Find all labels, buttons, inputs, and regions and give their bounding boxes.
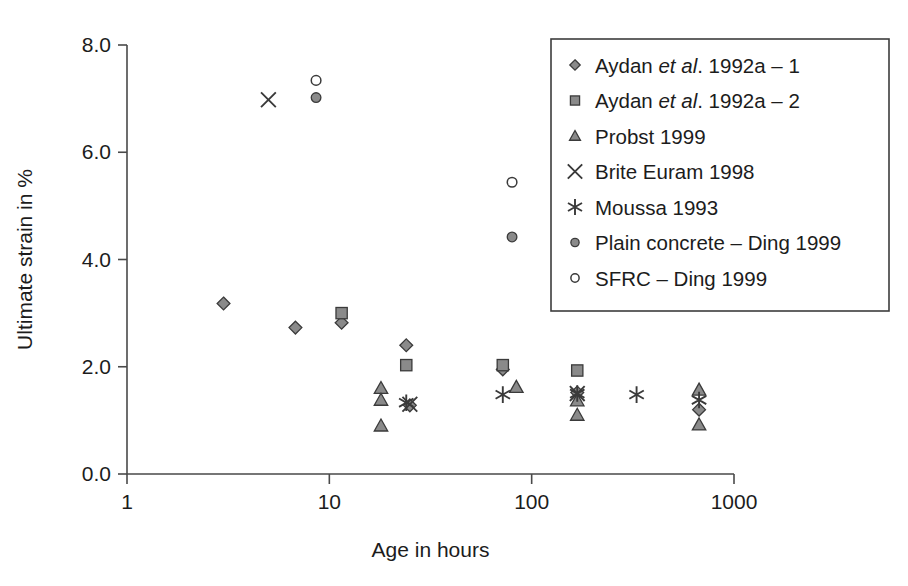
data-point-diamond — [289, 321, 302, 334]
data-point-square — [336, 307, 347, 318]
series-6 — [311, 76, 517, 188]
data-point-square — [572, 365, 583, 376]
legend-label: Probst 1999 — [595, 125, 706, 148]
data-point-diamond — [217, 297, 230, 310]
data-point-asterisk — [496, 386, 510, 403]
legend-item-3[interactable]: Brite Euram 1998 — [568, 160, 755, 183]
series-5 — [311, 93, 517, 242]
legend-item-6[interactable]: SFRC – Ding 1999 — [571, 267, 767, 290]
data-point-triangle — [374, 381, 387, 393]
data-point-square — [570, 96, 579, 105]
legend-label: SFRC – Ding 1999 — [595, 267, 767, 290]
x-axis-title: Age in hours — [372, 538, 490, 561]
legend-item-1[interactable]: Aydan et al. 1992a – 2 — [570, 89, 799, 112]
series-4 — [399, 385, 706, 411]
data-point-triangle — [510, 380, 523, 392]
y-tick-label: 4.0 — [82, 248, 111, 271]
legend-label: Brite Euram 1998 — [595, 160, 755, 183]
series-3 — [261, 92, 585, 411]
y-tick-label: 8.0 — [82, 33, 111, 56]
x-tick-label: 1000 — [711, 490, 758, 513]
data-point-square — [497, 360, 508, 371]
data-point-circle — [571, 238, 579, 246]
legend-item-0[interactable]: Aydan et al. 1992a – 1 — [570, 54, 800, 77]
legend-label: Plain concrete – Ding 1999 — [595, 231, 841, 254]
data-point-triangle — [571, 408, 584, 420]
data-point-triangle — [374, 419, 387, 431]
y-tick-label: 6.0 — [82, 140, 111, 163]
data-point-circle — [311, 93, 321, 103]
chart-canvas: 0.02.04.06.08.01101001000 Aydan et al. 1… — [0, 0, 908, 586]
data-point-triangle — [692, 418, 705, 430]
legend-item-5[interactable]: Plain concrete – Ding 1999 — [571, 231, 841, 254]
legend-label: Moussa 1993 — [595, 196, 718, 219]
data-point-triangle — [374, 393, 387, 405]
x-tick-label: 1 — [121, 490, 133, 513]
x-tick-label: 100 — [514, 490, 549, 513]
legend-label: Aydan et al. 1992a – 1 — [595, 54, 800, 77]
data-point-circle — [311, 76, 321, 86]
series-1 — [336, 307, 583, 376]
y-axis-title: Ultimate strain in % — [13, 169, 36, 350]
series-2 — [374, 380, 706, 431]
chart-legend: Aydan et al. 1992a – 1Aydan et al. 1992a… — [551, 39, 889, 311]
data-point-x — [261, 92, 276, 107]
data-point-circle — [571, 274, 579, 282]
data-point-circle — [507, 177, 517, 187]
y-tick-label: 0.0 — [82, 462, 111, 485]
x-tick-label: 10 — [318, 490, 341, 513]
y-tick-label: 2.0 — [82, 355, 111, 378]
data-point-circle — [507, 232, 517, 242]
data-point-asterisk — [629, 386, 643, 403]
scatter-chart: 0.02.04.06.08.01101001000 Aydan et al. 1… — [0, 0, 908, 586]
legend-label: Aydan et al. 1992a – 2 — [595, 89, 800, 112]
data-point-square — [401, 360, 412, 371]
data-point-diamond — [400, 339, 413, 352]
